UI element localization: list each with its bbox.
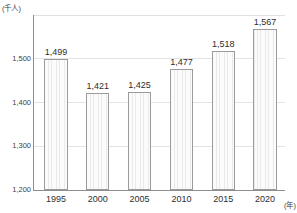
bar-value-label: 1,425 [114,80,165,90]
bar-group: 1,5182015 [202,15,244,190]
y-axis-tick-label: 1,300 [12,142,31,150]
y-axis-tick-label: 1,400 [12,99,31,107]
bar-group: 1,4991995 [35,15,77,190]
bar-group: 1,4252005 [119,15,161,190]
bar-value-label: 1,567 [239,17,290,27]
bar-group: 1,5672020 [244,15,286,190]
bar-column: 1,4252005 [128,15,151,190]
bars-layer: 1,49919951,42120001,42520051,47720101,51… [35,15,285,190]
bar-value-label: 1,499 [30,47,81,57]
y-axis-tick-label: 1,200 [12,186,31,194]
bar-column: 1,5182015 [212,15,235,190]
x-axis-unit-label: (年) [284,201,296,210]
bar-column: 1,5672020 [253,15,276,190]
bar-column: 1,4991995 [44,15,67,190]
bar[interactable] [128,92,151,190]
bar-column: 1,4212000 [86,15,109,190]
bar[interactable] [253,29,276,190]
bar[interactable] [44,59,67,190]
bar-column: 1,4772010 [170,15,193,190]
bar-chart: (千人) 1,2001,3001,4001,500 1,49919951,421… [0,0,297,213]
y-axis-unit-label: (千人) [2,4,21,13]
bar-group: 1,4772010 [161,15,203,190]
bar[interactable] [212,51,235,190]
bar-group: 1,4212000 [77,15,119,190]
plot-area: 1,2001,3001,4001,500 1,49919951,42120001… [33,15,285,191]
bar-value-label: 1,477 [156,57,207,67]
bar-value-label: 1,518 [198,39,249,49]
bar[interactable] [86,93,109,190]
bar[interactable] [170,69,193,190]
y-axis-tick-label: 1,500 [12,55,31,63]
